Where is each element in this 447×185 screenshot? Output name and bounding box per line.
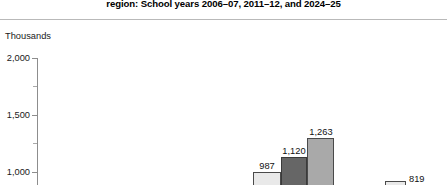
y-tick-label-1000: 1,000 <box>0 167 30 177</box>
y-tick-major-1000 <box>32 172 37 173</box>
y-axis-unit-label: Thousands <box>5 31 51 42</box>
y-tick-major-2000 <box>32 58 37 59</box>
y-tick-minor-1750 <box>33 86 37 87</box>
y-axis-line <box>37 58 38 185</box>
bar-value-label-819: 819 <box>409 174 439 184</box>
bar-second-group-partial[interactable] <box>385 181 406 185</box>
bar-2006-07[interactable] <box>253 172 281 185</box>
chart-title: region: School years 2006–07, 2011–12, a… <box>0 0 447 10</box>
chart-figure: region: School years 2006–07, 2011–12, a… <box>0 0 447 185</box>
bar-value-label-1263: 1,263 <box>300 127 342 137</box>
y-tick-major-1500 <box>32 115 37 116</box>
y-tick-minor-1250 <box>33 143 37 144</box>
y-tick-label-2000: 2,000 <box>0 53 30 63</box>
y-tick-label-1500: 1,500 <box>0 110 30 120</box>
bar-2011-12[interactable] <box>281 157 307 185</box>
title-divider <box>0 19 447 20</box>
bar-2024-25[interactable] <box>307 138 334 185</box>
plot-area: 2,000 1,500 1,000 987 1,120 1,263 819 <box>0 45 447 185</box>
